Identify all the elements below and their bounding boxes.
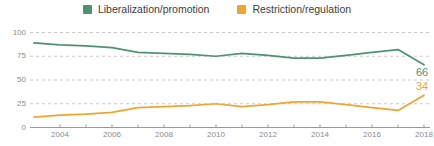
chart-gridlines <box>30 33 430 104</box>
y-tick-label: 0 <box>6 124 26 132</box>
x-tick-label: 2006 <box>92 131 132 139</box>
series-line-liberalization <box>34 43 424 65</box>
x-tick-label: 2018 <box>404 131 434 139</box>
y-tick-label: 25 <box>6 100 26 108</box>
chart-plot-area <box>0 0 434 146</box>
y-tick-label: 75 <box>6 52 26 60</box>
x-tick-label: 2016 <box>352 131 392 139</box>
end-value-label-liberalization: 66 <box>416 67 428 78</box>
x-tick-label: 2014 <box>300 131 340 139</box>
x-tick-label: 2004 <box>40 131 80 139</box>
x-tick-label: 2010 <box>196 131 236 139</box>
x-tick-label: 2012 <box>248 131 288 139</box>
x-tick-label: 2008 <box>144 131 184 139</box>
end-value-label-restriction: 34 <box>416 81 428 92</box>
y-tick-label: 100 <box>6 29 26 37</box>
series-line-restriction <box>34 95 424 117</box>
y-tick-label: 50 <box>6 76 26 84</box>
chart-root: Liberalization/promotion Restriction/reg… <box>0 0 434 146</box>
